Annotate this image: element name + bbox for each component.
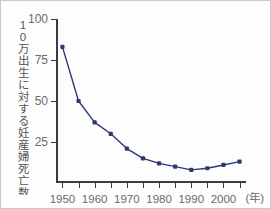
x-axis-tick <box>175 183 176 188</box>
x-axis-tick-label: 1980 <box>146 193 172 205</box>
x-axis-tick <box>79 183 80 188</box>
data-point-marker <box>125 146 129 150</box>
x-axis-unit-label: (年) <box>245 189 264 205</box>
data-point-marker <box>205 166 209 170</box>
x-axis-tick-label: 2000 <box>211 193 237 205</box>
x-axis-tick <box>111 183 112 188</box>
data-point-marker <box>109 132 113 136</box>
chart-figure: 10万出生に対する妊産婦死亡数 255075100 19501960197019… <box>0 0 271 209</box>
data-series <box>56 19 246 183</box>
x-axis-tick-label: 1990 <box>178 193 204 205</box>
y-axis-tick-label: 100 <box>18 12 48 26</box>
data-point-marker <box>189 168 193 172</box>
x-axis-tick <box>191 183 192 188</box>
x-axis-tick <box>62 183 63 188</box>
x-axis-tick-label: 1960 <box>82 193 108 205</box>
data-point-marker <box>141 156 145 160</box>
y-axis-tick-label: 25 <box>18 135 48 149</box>
plot-area: 255075100 195019601970198019902000 (年) <box>56 19 246 183</box>
x-axis-tick-label: 1950 <box>50 193 76 205</box>
x-axis-tick <box>159 183 160 188</box>
x-axis-tick <box>240 183 241 188</box>
data-point-marker <box>237 160 241 164</box>
x-axis-tick-label: 1970 <box>114 193 140 205</box>
x-axis-tick <box>207 183 208 188</box>
y-axis-tick-label: 50 <box>18 94 48 108</box>
data-point-marker <box>221 163 225 167</box>
data-point-marker <box>76 99 80 103</box>
series-markers <box>60 45 241 172</box>
x-axis-tick <box>143 183 144 188</box>
data-point-marker <box>173 165 177 169</box>
data-point-marker <box>157 161 161 165</box>
x-axis-tick <box>223 183 224 188</box>
data-point-marker <box>60 45 64 49</box>
series-line <box>62 47 239 170</box>
data-point-marker <box>93 120 97 124</box>
y-axis-tick-label: 75 <box>18 53 48 67</box>
x-axis-tick <box>127 183 128 188</box>
x-axis-tick <box>95 183 96 188</box>
